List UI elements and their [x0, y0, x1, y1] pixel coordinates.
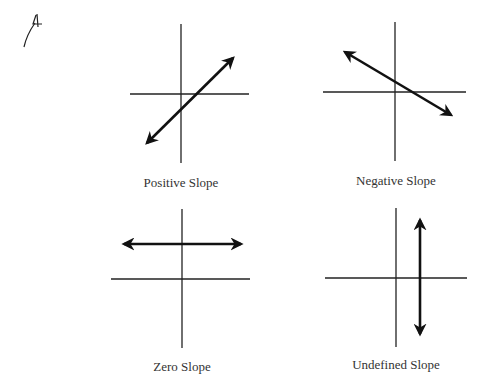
- negative-slope-label: Negative Slope: [356, 173, 436, 189]
- handwritten-mark-icon: [24, 14, 42, 47]
- slope-diagram: [0, 0, 482, 382]
- negative-line-arrow: [345, 52, 451, 115]
- zero-slope-label: Zero Slope: [153, 359, 210, 375]
- negative-slope-graph: [323, 22, 466, 161]
- positive-slope-label: Positive Slope: [144, 175, 219, 191]
- undefined-slope-label: Undefined Slope: [352, 357, 440, 373]
- positive-line-arrow: [147, 58, 233, 143]
- zero-slope-graph: [111, 209, 250, 348]
- undefined-slope-graph: [325, 208, 467, 347]
- positive-slope-graph: [130, 24, 249, 163]
